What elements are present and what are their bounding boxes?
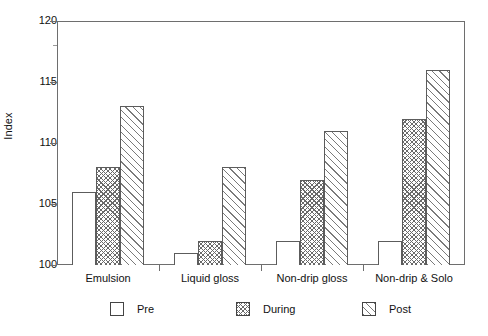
bar-pre-1 [174, 253, 198, 265]
x-tick-mark-0 [159, 265, 160, 271]
x-tick-label-1: Liquid gloss [159, 272, 261, 285]
legend-swatch-post-icon [362, 302, 376, 316]
bar-pre-3 [378, 241, 402, 265]
bar-pre-2 [276, 241, 300, 265]
x-tick-label-0: Emulsion [57, 272, 159, 285]
legend-label-post: Post [389, 303, 411, 315]
bar-during-1 [198, 241, 222, 265]
legend-entry-post: Post [362, 302, 411, 316]
bar-during-2 [300, 180, 324, 265]
legend-entry-pre: Pre [110, 302, 154, 316]
legend: Pre During Post [57, 302, 465, 324]
bar-post-2 [324, 131, 348, 265]
bar-post-3 [426, 70, 450, 265]
bar-post-0 [120, 106, 144, 265]
legend-swatch-pre-icon [110, 302, 124, 316]
x-tick-mark-1 [261, 265, 262, 271]
bar-during-0 [96, 167, 120, 265]
legend-label-during: During [263, 303, 295, 315]
bar-chart: Index 120 115 110 105 100 EmulsionLiquid… [0, 0, 488, 336]
bar-post-1 [222, 167, 246, 265]
bar-during-3 [402, 119, 426, 265]
bars-layer [0, 0, 488, 336]
legend-label-pre: Pre [137, 303, 154, 315]
legend-entry-during: During [236, 302, 295, 316]
x-tick-label-3: Non-drip & Solo [363, 272, 465, 285]
bar-pre-0 [72, 192, 96, 265]
legend-swatch-during-icon [236, 302, 250, 316]
x-tick-mark-2 [363, 265, 364, 271]
x-tick-label-2: Non-drip gloss [261, 272, 363, 285]
